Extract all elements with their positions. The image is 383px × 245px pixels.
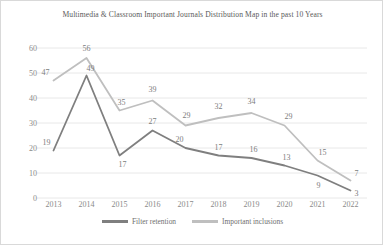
legend-swatch-icon [102,220,128,223]
data-point-label: 9 [317,180,321,189]
data-point-label: 34 [248,97,256,106]
data-point-label: 17 [119,159,127,168]
y-axis-tick-label: 20 [15,144,37,153]
x-axis: 2013201420152016201720182019202020212022 [1,200,383,214]
legend-swatch-icon [192,220,218,223]
y-axis-tick-label: 10 [15,169,37,178]
y-axis-tick-label: 60 [15,44,37,53]
y-axis-tick-label: 40 [15,94,37,103]
chart-card: Multimedia & Classroom Important Journal… [0,0,383,245]
data-point-label: 3 [355,188,359,197]
data-point-label: 47 [42,67,50,76]
data-point-label: 39 [149,84,157,93]
y-axis-tick-label: 50 [15,69,37,78]
legend-label: Important inclusions [222,217,283,226]
data-point-label: 19 [43,137,51,146]
x-axis-tick-label: 2022 [331,200,371,209]
series-line [54,58,351,181]
data-point-label: 13 [283,152,291,161]
data-point-label: 16 [250,145,258,154]
data-point-label: 56 [83,44,91,53]
data-point-label: 20 [176,135,184,144]
data-point-label: 49 [87,63,95,72]
legend-item[interactable]: Important inclusions [192,217,283,226]
data-point-label: 7 [355,168,359,177]
data-point-label: 29 [285,111,293,120]
legend-label: Filter retention [132,217,176,226]
data-point-label: 29 [183,110,191,119]
legend-item[interactable]: Filter retention [102,217,176,226]
data-point-label: 17 [215,142,223,151]
data-point-label: 15 [319,147,327,156]
data-point-label: 35 [118,97,126,106]
chart-legend: Filter retentionImportant inclusions [1,217,383,226]
data-point-label: 27 [149,116,157,125]
data-point-label: 32 [215,102,223,111]
y-axis-tick-label: 30 [15,119,37,128]
